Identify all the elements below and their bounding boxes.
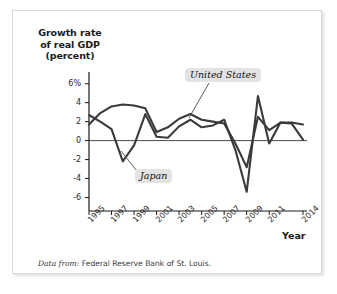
source-note: Data from: Federal Reserve Bank of St. L… xyxy=(38,259,211,268)
series-label-united-states: United States xyxy=(185,68,261,82)
figure-panel: Growth rate of real GDP (percent) Year 6… xyxy=(12,10,322,274)
source-note-prefix: Data from: xyxy=(38,259,79,268)
source-note-text: Federal Reserve Bank of St. Louis. xyxy=(82,259,211,268)
leader-line-united-states xyxy=(189,83,209,118)
series-line-japan xyxy=(89,96,303,192)
axes-group xyxy=(85,72,307,215)
line-chart-plot xyxy=(13,11,323,275)
series-label-japan: Japan xyxy=(135,169,172,183)
series-group xyxy=(89,96,303,192)
annotation-leader-lines xyxy=(121,83,209,171)
